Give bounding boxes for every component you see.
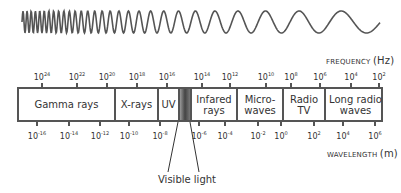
visible-light-callout-lines — [0, 0, 401, 193]
visible-light-label: Visible light — [158, 174, 216, 185]
